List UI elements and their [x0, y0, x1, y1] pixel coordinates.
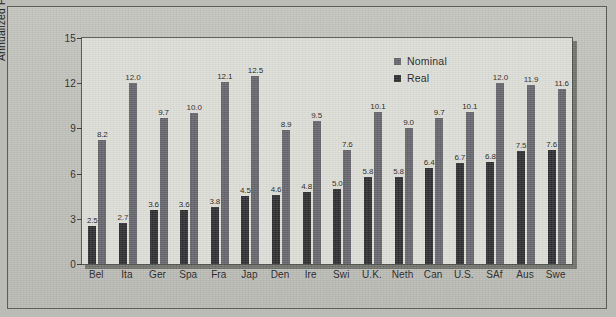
bar-nominal — [343, 150, 351, 265]
bar-nominal — [98, 140, 106, 264]
bar-nominal — [160, 118, 168, 264]
x-axis-label: Spa — [173, 269, 204, 280]
legend-item-real: Real — [394, 72, 447, 84]
legend-label-real: Real — [407, 72, 429, 84]
bar-nominal — [466, 112, 474, 264]
x-axis-labels: BelItaGerSpaFraJapDenIreSwiU.K.NethCanU.… — [81, 269, 573, 287]
y-tick-label: 9 — [56, 123, 76, 134]
bar-real — [364, 177, 372, 264]
x-axis-label: Can — [418, 269, 449, 280]
page-frame: 03691215 2.58.22.712.03.69.73.610.03.812… — [7, 6, 607, 309]
bar-value-nominal: 12.1 — [214, 72, 236, 81]
bar-value-nominal: 9.7 — [153, 108, 175, 117]
bar-real — [548, 150, 556, 265]
bar-nominal — [313, 121, 321, 264]
y-tick-label: 15 — [56, 33, 76, 44]
x-axis-label: Ire — [295, 269, 326, 280]
bar-value-nominal: 9.0 — [398, 118, 420, 127]
bar-nominal — [496, 83, 504, 264]
x-axis-label: Aus — [510, 269, 541, 280]
bar-real — [272, 195, 280, 264]
bar-nominal — [405, 128, 413, 264]
bar-real — [241, 196, 249, 264]
y-axis-title: Annualized Percentage Return — [0, 0, 7, 61]
y-tick-label: 12 — [56, 78, 76, 89]
x-axis-label: Ger — [142, 269, 173, 280]
bar-value-nominal: 10.1 — [459, 102, 481, 111]
x-axis-label: Ita — [112, 269, 143, 280]
bar-real — [333, 189, 341, 264]
chart-legend: Nominal Real — [394, 55, 447, 89]
bar-value-nominal: 11.9 — [520, 75, 542, 84]
x-axis-label: U.K. — [357, 269, 388, 280]
bar-value-nominal: 8.9 — [275, 120, 297, 129]
x-axis-label: U.S. — [449, 269, 480, 280]
bar-nominal — [435, 118, 443, 264]
bar-real — [456, 163, 464, 264]
bar-nominal — [251, 76, 259, 264]
x-axis-label: Swi — [326, 269, 357, 280]
bar-real — [88, 226, 96, 264]
bar-nominal — [190, 113, 198, 264]
y-tick-label: 6 — [56, 168, 76, 179]
legend-swatch-nominal — [394, 58, 401, 65]
bar-nominal — [129, 83, 137, 264]
plot-inner: 03691215 2.58.22.712.03.69.73.610.03.812… — [82, 38, 572, 264]
bars-layer: 2.58.22.712.03.69.73.610.03.812.14.512.5… — [82, 38, 572, 264]
x-axis-label: Jap — [234, 269, 265, 280]
legend-label-nominal: Nominal — [407, 55, 447, 67]
figure-root: 03691215 2.58.22.712.03.69.73.610.03.812… — [0, 0, 616, 317]
bar-real — [150, 210, 158, 264]
bar-nominal — [282, 130, 290, 264]
bar-real — [395, 177, 403, 264]
bar-nominal — [558, 89, 566, 264]
bar-real — [119, 223, 127, 264]
bar-real — [211, 207, 219, 264]
x-axis-label: Swe — [540, 269, 571, 280]
bar-value-nominal: 12.0 — [489, 73, 511, 82]
bar-value-nominal: 12.0 — [122, 73, 144, 82]
bar-value-nominal: 12.5 — [244, 66, 266, 75]
x-axis-label: Neth — [387, 269, 418, 280]
bar-value-nominal: 9.7 — [428, 108, 450, 117]
bar-value-nominal: 7.6 — [336, 140, 358, 149]
bar-nominal — [527, 85, 535, 264]
bar-real — [180, 210, 188, 264]
y-tick-mark — [77, 264, 82, 265]
x-axis-label: SAf — [479, 269, 510, 280]
bar-value-nominal: 11.6 — [551, 79, 573, 88]
legend-swatch-real — [394, 75, 401, 82]
bar-value-nominal: 10.1 — [367, 102, 389, 111]
plot-area: 03691215 2.58.22.712.03.69.73.610.03.812… — [81, 37, 573, 265]
bar-value-nominal: 9.5 — [306, 111, 328, 120]
y-tick-label: 0 — [56, 259, 76, 270]
bar-nominal — [374, 112, 382, 264]
y-tick-label: 3 — [56, 213, 76, 224]
x-axis-label: Bel — [81, 269, 112, 280]
bar-real — [303, 192, 311, 264]
bar-value-nominal: 10.0 — [183, 103, 205, 112]
bar-real — [486, 162, 494, 264]
bar-nominal — [221, 82, 229, 264]
bar-real — [425, 168, 433, 264]
x-axis-label: Den — [265, 269, 296, 280]
x-axis-label: Fra — [204, 269, 235, 280]
bar-real — [517, 151, 525, 264]
legend-item-nominal: Nominal — [394, 55, 447, 67]
bar-value-nominal: 8.2 — [91, 130, 113, 139]
